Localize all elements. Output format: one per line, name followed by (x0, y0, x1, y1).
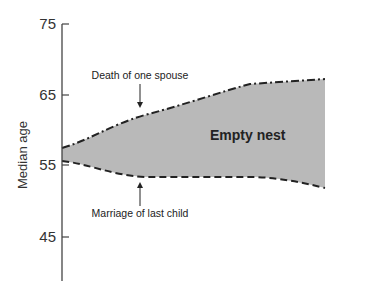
tick-label-55: 55 (39, 156, 56, 173)
empty-nest-label: Empty nest (210, 127, 286, 143)
tick-label-65: 65 (39, 86, 56, 103)
tick-label-45: 45 (39, 228, 56, 245)
death-arrowhead-icon (137, 102, 143, 108)
empty-nest-area (62, 79, 325, 188)
tick-label-75: 75 (39, 15, 56, 32)
marriage-annotation: Marriage of last child (92, 207, 189, 219)
marriage-arrowhead-icon (137, 182, 143, 188)
y-axis-label: Median age (15, 121, 30, 189)
chart: 75 65 55 45 Median age Death of one spou… (0, 0, 367, 281)
death-annotation: Death of one spouse (92, 69, 189, 81)
